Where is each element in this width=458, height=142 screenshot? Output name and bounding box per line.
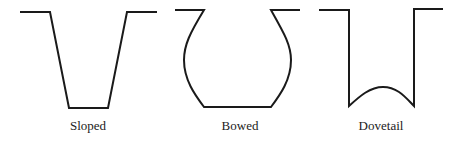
sloped-label: Sloped xyxy=(70,118,106,134)
dovetail-label: Dovetail xyxy=(359,118,404,134)
bowed-label: Bowed xyxy=(222,118,259,134)
sloped-profile xyxy=(20,12,157,108)
dovetail-profile xyxy=(319,9,443,106)
bowed-profile xyxy=(175,10,300,107)
